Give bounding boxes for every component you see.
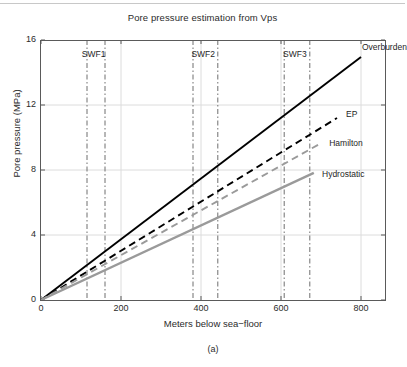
x-tick-label: 200 [99,303,143,313]
x-tick-label: 600 [259,303,303,313]
annotation-label: SWF1 [82,49,106,59]
x-tick-label: 800 [339,303,383,313]
series-line-hydrostatic [41,173,314,300]
y-tick-label: 8 [10,164,36,174]
series-label-ep: EP [346,109,357,119]
series-line-hamilton [41,143,321,300]
annotation-label: SWF3 [283,49,307,59]
y-tick-label: 12 [10,99,36,109]
series-label-overburden: Overburden [362,42,407,52]
x-tick-label: 400 [179,303,223,313]
x-tick-label: 0 [19,303,63,313]
series-line-ep [41,118,337,300]
series-label-hamilton: Hamilton [329,138,363,148]
series-label-hydrostatic: Hydrostatic [322,169,365,179]
y-tick-label: 16 [10,34,36,44]
annotation-label: SWF2 [191,49,215,59]
y-tick-label: 4 [10,229,36,239]
